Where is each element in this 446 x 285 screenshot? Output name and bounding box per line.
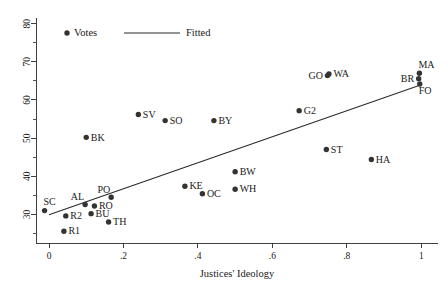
data-point-marker — [136, 112, 141, 117]
data-point-label: BW — [240, 166, 257, 177]
data-point-marker — [92, 203, 97, 208]
legend-fitted-label: Fitted — [186, 27, 211, 38]
data-point-label: AL — [71, 191, 84, 202]
data-point-marker — [416, 76, 421, 81]
data-point-label: PO — [97, 184, 110, 195]
data-point-label: MA — [418, 59, 435, 70]
data-point-marker — [232, 187, 237, 192]
data-point-marker — [63, 213, 68, 218]
data-point-label: G2 — [304, 105, 316, 116]
x-axis-title: Justices' Ideology — [200, 268, 275, 279]
data-point-label: SV — [143, 109, 157, 120]
data-point-marker — [182, 183, 187, 188]
data-point-marker — [326, 71, 331, 76]
data-point-label: SO — [170, 115, 183, 126]
x-axis-ticks: 0.2.4.6.81 — [47, 243, 424, 261]
x-tick-label: 1 — [419, 251, 424, 261]
legend-votes-label: Votes — [74, 27, 97, 38]
data-point-marker — [324, 147, 329, 152]
legend-group: VotesFitted — [64, 27, 211, 38]
data-point-marker — [417, 71, 422, 76]
data-point-marker — [84, 135, 89, 140]
data-point-marker — [162, 118, 167, 123]
y-tick-label: 40 — [22, 171, 32, 181]
data-point-marker — [200, 191, 205, 196]
data-point-marker — [106, 219, 111, 224]
data-point-marker — [42, 208, 47, 213]
data-point-label: R1 — [68, 225, 80, 236]
fitted-regression-line — [49, 85, 421, 215]
data-point-marker — [211, 118, 216, 123]
y-tick-label: 30 — [22, 209, 32, 219]
data-point-label: TH — [113, 216, 126, 227]
y-tick-label: 80 — [22, 19, 32, 29]
data-point-label: OC — [207, 188, 221, 199]
data-point-label: R2 — [70, 210, 82, 221]
data-point-marker — [88, 211, 93, 216]
x-tick-label: .2 — [120, 251, 127, 261]
x-tick-label: 0 — [47, 251, 52, 261]
data-point-marker — [296, 108, 301, 113]
x-tick-label: .4 — [194, 251, 201, 261]
legend-votes-marker-icon — [64, 30, 69, 35]
data-point-marker — [82, 202, 87, 207]
data-point-label: FO — [419, 85, 432, 96]
data-point-label: RO — [99, 200, 113, 211]
data-point-marker — [108, 195, 113, 200]
x-tick-label: .8 — [343, 251, 350, 261]
data-point-label: BK — [91, 132, 106, 143]
data-point-label: GO — [308, 70, 322, 81]
data-point-marker — [61, 228, 66, 233]
data-point-label: WH — [240, 183, 257, 194]
data-points-group: SCR1R2ALBKBUROTHPOSVSOKEOCBYBWWHG2GOWAST… — [42, 59, 435, 237]
data-point-label: HA — [376, 154, 391, 165]
fitted-line-group — [49, 85, 421, 215]
y-tick-label: 50 — [22, 133, 32, 143]
data-point-label: WA — [333, 68, 349, 79]
data-point-label: SC — [44, 196, 57, 207]
x-axis-title-group: Justices' Ideology — [200, 268, 275, 279]
data-point-marker — [369, 157, 374, 162]
data-point-label: KE — [189, 180, 202, 191]
data-point-label: ST — [331, 144, 343, 155]
data-point-label: BR — [401, 73, 415, 84]
data-point-marker — [232, 169, 237, 174]
y-axis-ticks: 304050607080 — [22, 19, 36, 234]
chart-canvas: 304050607080 0.2.4.6.81 SCR1R2ALBKBUROTH… — [0, 0, 446, 285]
data-point-label: BY — [218, 115, 232, 126]
y-tick-label: 60 — [22, 95, 32, 105]
x-tick-label: .6 — [269, 251, 276, 261]
scatter-chart: 304050607080 0.2.4.6.81 SCR1R2ALBKBUROTH… — [0, 0, 446, 285]
y-tick-label: 70 — [22, 57, 32, 67]
